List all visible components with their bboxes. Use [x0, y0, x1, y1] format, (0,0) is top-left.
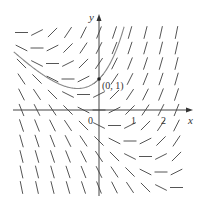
slope-segment: [81, 181, 85, 193]
slope-segment: [126, 89, 133, 100]
slope-segment: [79, 121, 88, 130]
slope-segment: [159, 42, 162, 55]
y-axis-arrow-icon: [97, 14, 102, 21]
slope-segment: [112, 42, 117, 54]
slope-segment: [48, 90, 57, 99]
slope-segment: [33, 89, 40, 100]
slope-segment: [156, 136, 165, 145]
slope-segment: [35, 150, 39, 163]
slope-segment: [47, 45, 59, 51]
slope-segment: [20, 135, 24, 148]
slope-segment: [17, 59, 26, 68]
slope-segment: [128, 26, 132, 39]
slope-segment: [18, 74, 25, 85]
x-axis-label: x: [187, 114, 193, 126]
slope-segment: [144, 26, 147, 39]
slope-segment: [126, 182, 133, 193]
slope-segment: [81, 27, 87, 39]
slope-segment: [112, 26, 116, 38]
slope-segment: [35, 119, 40, 131]
slope-segment: [159, 88, 164, 100]
slope-segment: [128, 42, 132, 54]
slope-segment: [128, 57, 133, 69]
slope-segment: [35, 166, 38, 179]
slope-segment: [175, 26, 178, 39]
slope-segment: [159, 57, 163, 70]
slope-segment: [62, 92, 74, 98]
slope-segment: [63, 43, 72, 52]
slope-segment: [143, 89, 149, 101]
slope-segment: [160, 26, 163, 39]
slope-field-svg: x y 0 1 2 (0, 1): [0, 0, 201, 206]
slope-segment: [143, 73, 148, 85]
slope-segment: [48, 28, 57, 37]
slope-segment: [155, 185, 167, 191]
slope-segment: [112, 182, 118, 194]
slope-segment: [80, 136, 87, 147]
slope-segment: [175, 42, 178, 55]
slope-segment: [50, 120, 56, 132]
slope-segment: [143, 57, 147, 69]
slope-segment: [174, 120, 180, 132]
slope-segment: [159, 73, 163, 85]
slope-segment: [50, 150, 54, 162]
slope-segment: [81, 151, 87, 163]
initial-point-marker: [97, 77, 101, 81]
slope-segment: [66, 181, 70, 194]
slope-segment: [127, 73, 133, 85]
slope-segment: [51, 181, 54, 194]
slope-segment: [81, 166, 86, 178]
slope-field-figure: x y 0 1 2 (0, 1): [0, 0, 201, 206]
slope-segment: [20, 166, 23, 179]
slope-segment: [36, 181, 39, 194]
slope-segment: [32, 74, 41, 83]
slope-segment: [20, 150, 23, 163]
slope-segment: [66, 150, 71, 162]
slope-segment: [124, 154, 136, 160]
slope-segment: [109, 138, 121, 144]
slope-segment: [111, 167, 118, 178]
slope-segment: [172, 152, 181, 161]
slope-segment: [173, 136, 180, 147]
slope-segment: [62, 61, 74, 67]
slope-segment: [110, 90, 119, 99]
slope-segment: [140, 169, 152, 175]
slope-segment: [141, 121, 150, 130]
slope-segment: [79, 59, 88, 68]
slope-segment: [16, 45, 28, 51]
slope-segment: [19, 89, 25, 101]
slope-segment: [20, 181, 23, 194]
slope-segment: [110, 152, 119, 161]
slope-segment: [171, 169, 183, 175]
slope-segment: [35, 135, 39, 147]
slope-segment: [125, 167, 134, 176]
slope-segment: [80, 43, 87, 54]
slope-segment: [175, 73, 179, 86]
point-label: (0, 1): [102, 80, 124, 92]
y-axis-label: y: [88, 11, 94, 23]
origin-label: 0: [88, 115, 93, 126]
slope-segment: [64, 27, 71, 38]
slope-segment: [65, 135, 71, 147]
slope-segment: [174, 88, 178, 100]
x-tick-label-1: 1: [131, 115, 136, 126]
slope-segment: [19, 119, 23, 131]
slope-segment: [141, 183, 150, 192]
slope-segment: [144, 42, 148, 55]
slope-segment: [31, 61, 43, 67]
slope-segment: [155, 154, 167, 160]
x-axis-arrow-icon: [186, 108, 193, 113]
slope-segment: [51, 166, 55, 179]
slope-segment: [31, 30, 43, 36]
slope-segment: [64, 120, 71, 131]
x-tick-label-2: 2: [161, 115, 166, 126]
slope-segment: [50, 135, 55, 147]
slope-segment: [66, 166, 70, 178]
slope-segment: [78, 76, 90, 82]
slope-segment: [175, 57, 178, 70]
slope-segment: [140, 138, 152, 144]
